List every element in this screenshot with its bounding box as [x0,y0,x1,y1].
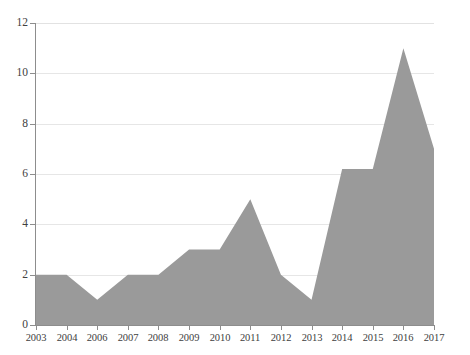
y-tick-label: 6 [0,168,28,180]
x-tick-2006 [97,325,98,330]
y-tick-label: 0 [0,319,28,331]
x-tick-2013 [312,325,313,330]
x-tick-2003 [36,325,37,330]
x-tick-2014 [342,325,343,330]
area-series-polygon [36,48,434,325]
area-chart: 024681012 200320042006200720082009201020… [0,0,470,355]
x-tick-2009 [189,325,190,330]
x-tick-2015 [373,325,374,330]
x-tick-label: 2017 [414,333,454,344]
gridline-6 [36,174,434,175]
x-tick-2017 [434,325,435,330]
gridline-2 [36,275,434,276]
y-tick-10 [30,73,36,74]
x-tick-2004 [67,325,68,330]
y-tick-4 [30,224,36,225]
x-tick-2008 [158,325,159,330]
y-tick-label: 10 [0,67,28,79]
gridline-12 [36,23,434,24]
gridline-8 [36,124,434,125]
y-tick-label: 8 [0,118,28,130]
gridline-4 [36,224,434,225]
y-tick-label: 12 [0,17,28,29]
x-tick-2010 [220,325,221,330]
x-tick-2016 [403,325,404,330]
area-series [0,0,470,355]
y-tick-label: 4 [0,218,28,230]
gridline-10 [36,73,434,74]
x-tick-2012 [281,325,282,330]
y-tick-2 [30,275,36,276]
x-axis-line [35,325,435,326]
x-tick-2007 [128,325,129,330]
y-tick-8 [30,124,36,125]
y-tick-12 [30,23,36,24]
x-tick-2011 [250,325,251,330]
y-tick-6 [30,174,36,175]
y-tick-label: 2 [0,269,28,281]
